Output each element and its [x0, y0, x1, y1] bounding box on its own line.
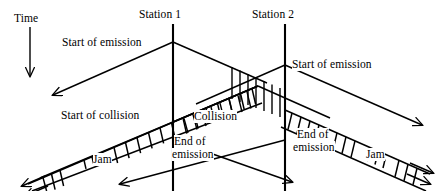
station-1-label: Station 1 — [139, 8, 181, 21]
diagram-canvas — [0, 0, 441, 191]
jam-right-label: Jam — [366, 148, 385, 161]
start-of-collision-label: Start of collision — [61, 109, 139, 122]
end-of-emission-center-label-line2: emission — [172, 148, 214, 161]
time-axis-label: Time — [14, 12, 38, 25]
jam-left-label: Jam — [93, 153, 112, 166]
end-of-emission-right-label-line1: End of — [297, 128, 329, 141]
end-of-emission-right-label-line2: emission — [293, 141, 335, 154]
space-time-diagram: Time Station 1 Station 2 Start of emissi… — [0, 0, 441, 191]
start-of-emission-left-label: Start of emission — [62, 36, 142, 49]
jam-band-left — [28, 86, 262, 191]
start-of-emission-right-label: Start of emission — [292, 58, 372, 71]
end-of-emission-center-label-line1: End of — [174, 135, 206, 148]
collision-label: Collision — [194, 110, 237, 123]
station-2-label: Station 2 — [252, 8, 294, 21]
